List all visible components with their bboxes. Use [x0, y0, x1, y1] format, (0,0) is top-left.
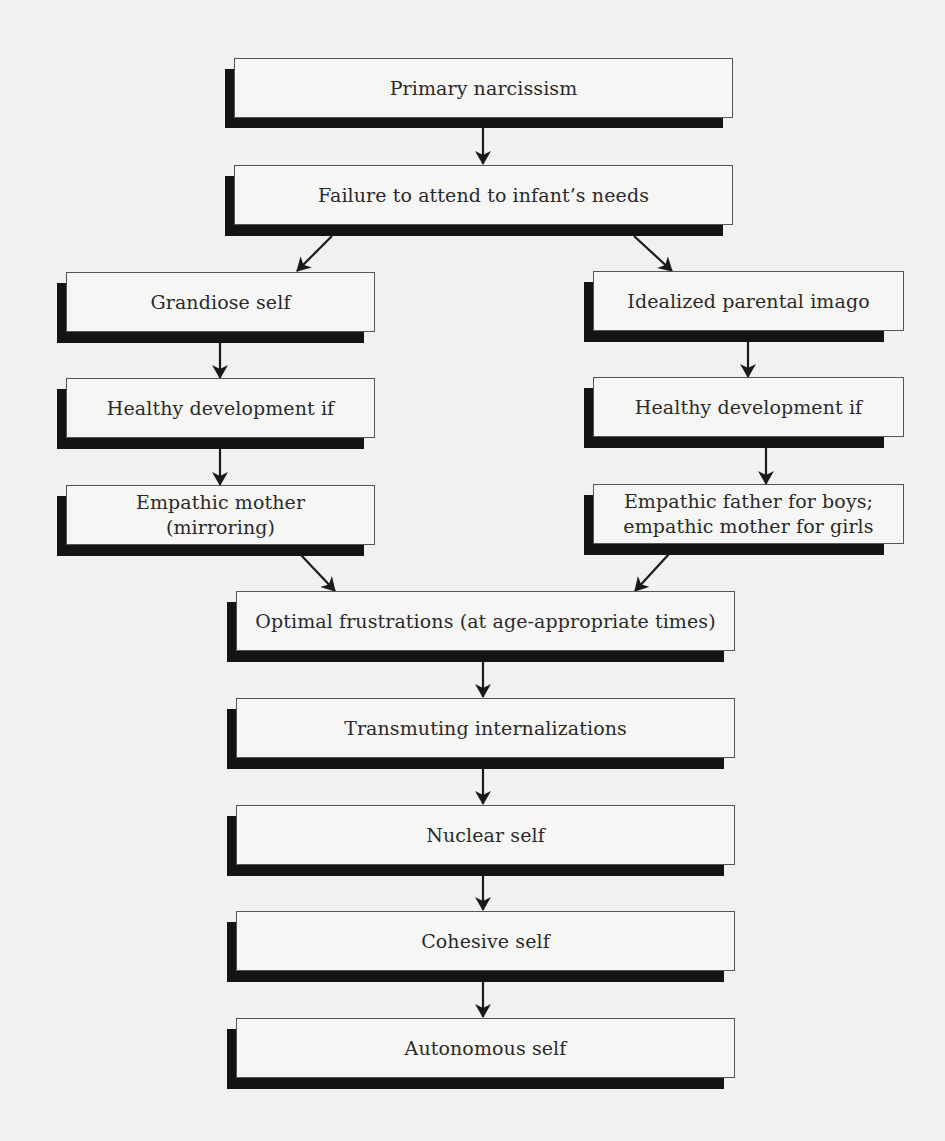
- node-label: Grandiose self: [66, 272, 375, 332]
- arrow-failure-to-grandiose: [297, 236, 332, 271]
- node-label: Optimal frustrations (at age-appropriate…: [236, 591, 735, 651]
- arrow-empathic-mother-to-optimal: [301, 555, 335, 591]
- node-label: Primary narcissism: [234, 58, 733, 118]
- node-label: Empathic mother (mirroring): [66, 485, 375, 545]
- node-label: Healthy development if: [593, 377, 904, 437]
- node-label: Healthy development if: [66, 378, 375, 438]
- arrow-empathic-father-to-optimal: [635, 554, 669, 591]
- node-label: Idealized parental imago: [593, 271, 904, 331]
- node-label: Autonomous self: [236, 1018, 735, 1078]
- node-label: Nuclear self: [236, 805, 735, 865]
- node-label: Transmuting internalizations: [236, 698, 735, 758]
- node-label: Failure to attend to infant’s needs: [234, 165, 733, 225]
- node-label: Empathic father for boys; empathic mothe…: [593, 484, 904, 544]
- node-label: Cohesive self: [236, 911, 735, 971]
- arrow-failure-to-idealized: [634, 236, 672, 271]
